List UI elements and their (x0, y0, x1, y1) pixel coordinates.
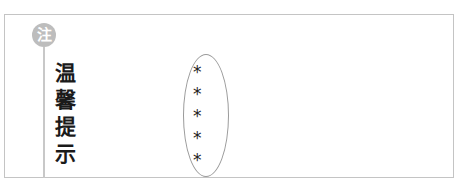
list-item: * (193, 130, 202, 147)
list-item: * (193, 86, 202, 103)
note-badge-icon: 注 (32, 23, 56, 47)
list-item: * (193, 108, 202, 125)
vertical-divider (43, 47, 45, 178)
title-char: 提 (53, 114, 77, 141)
note-title: 温 馨 提 示 (53, 60, 77, 168)
list-item: * (193, 64, 202, 81)
title-char: 示 (53, 141, 77, 168)
title-char: 馨 (53, 87, 77, 114)
title-char: 温 (53, 60, 77, 87)
list-item: * (193, 152, 202, 169)
highlight-ellipse (183, 54, 229, 177)
